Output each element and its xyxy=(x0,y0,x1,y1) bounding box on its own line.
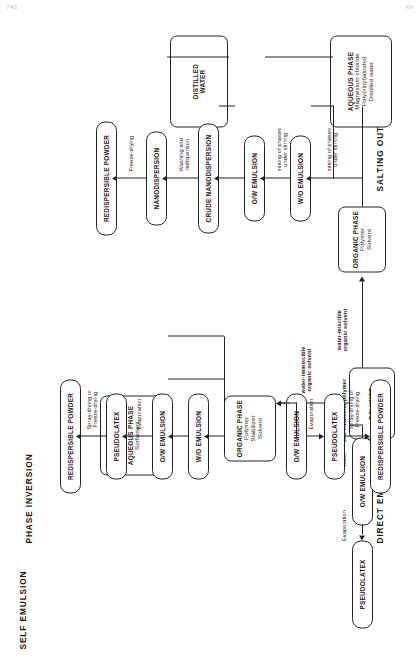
node-so-aqueous-phase-sub-2: Distilled water xyxy=(368,61,375,100)
edge-de-spine-corner xyxy=(296,435,297,436)
edge-pi-to-wo xyxy=(209,435,225,436)
node-so-ow-emulsion-label: O/W EMULSION xyxy=(251,152,258,203)
arrow-polymer-to-so-organic xyxy=(359,276,365,281)
edge-label-so-freeze-drying: Freeze-drying xyxy=(128,135,134,171)
edge-self-ow-pseudo xyxy=(362,524,363,534)
edge-de-pseudo-to-powder xyxy=(345,435,365,436)
edge-de-ow-to-pseudo xyxy=(307,435,319,436)
edge-pi-spine xyxy=(224,336,225,436)
arrow-so-organic-to-wo xyxy=(306,175,311,181)
edge-label-so-mix-2: mixing of phases under stirring xyxy=(276,127,289,171)
edge-label-pi-evaporation: Evaporation xyxy=(136,398,142,429)
edge-so-aqueous-feed-a xyxy=(311,105,333,106)
arrow-de-ow-to-pseudo xyxy=(319,433,324,439)
edge-label-water-miscible: water-miscible organic solvent xyxy=(336,308,349,351)
node-so-distilled-water-sub-0: WATER xyxy=(199,69,206,93)
edge-pi-pseudo-to-powder xyxy=(81,435,107,436)
node-self-pseudolatex-label: PSEUDOLATEX xyxy=(359,559,366,609)
arrow-pi-wo-to-ow xyxy=(168,433,173,439)
branch-title-salting-out: SALTING OUT xyxy=(375,125,385,191)
edge-so-wo-to-ow xyxy=(265,177,291,178)
arrow-so-crude-to-nano xyxy=(162,175,167,181)
node-so-organic-phase-sub-1: Solvent xyxy=(366,228,373,249)
node-so-distilled-water: DISTILLED WATER xyxy=(170,35,228,127)
node-pi-ow-emulsion-label: O/W EMULSION xyxy=(159,410,166,461)
arrow-so-ow-to-crude xyxy=(214,175,219,181)
node-pi-wo-emulsion-label: W/O EMULSION xyxy=(195,410,202,461)
arrow-de-pseudo-to-powder xyxy=(365,433,370,439)
edge-polymer-to-so-organic xyxy=(362,281,363,367)
edge-so-ow-to-crude xyxy=(219,177,245,178)
edge-label-de-evaporation: Evaporation xyxy=(308,398,314,429)
node-pi-organic-phase: ORGANIC PHASE Polymer Stabilizer Solvent xyxy=(224,395,276,461)
node-so-wo-emulsion-label: W/O EMULSION xyxy=(297,152,304,203)
node-de-pseudolatex: PSEUDOLATEX xyxy=(324,393,345,479)
edge-de-spine xyxy=(296,402,297,436)
node-so-aqueous-phase: AQUEOUS PHASE Magnesium chloride Poly(vi… xyxy=(330,35,392,127)
edge-label-so-washing: Washing and redispersion xyxy=(178,137,191,171)
branch-title-phase-inversion: PHASE INVERSION xyxy=(24,453,34,543)
edge-pi-ow-to-pseudo xyxy=(127,435,153,436)
edge-so-water-feed-b xyxy=(167,56,229,57)
arrow-pi-ow-to-pseudo xyxy=(122,433,127,439)
edge-label-water-immiscible: water-immiscible organic solvent xyxy=(300,346,313,393)
arrow-so-wo-to-ow xyxy=(260,175,265,181)
arrow-self-ow-pseudo xyxy=(359,535,365,540)
edge-label-de-drying: Spray-drying or Freeze-drying xyxy=(348,389,361,429)
node-so-nanodispersion-label: NANODISPERSION xyxy=(153,147,160,209)
node-de-pseudolatex-label: PSEUDOLATEX xyxy=(331,411,338,461)
node-pi-organic-phase-sub-2: Solvent xyxy=(257,417,264,438)
branch-title-self-emulsion: SELF EMULSION xyxy=(18,570,28,649)
edge-label-so-mix-1: mixing of phases under stirring xyxy=(326,127,339,171)
edge-so-water-feed-a xyxy=(219,105,235,106)
arrow-pi-to-wo xyxy=(204,433,209,439)
node-self-pseudolatex: PSEUDOLATEX xyxy=(352,540,373,628)
node-so-distilled-water-label: DISTILLED xyxy=(192,63,199,98)
edge-so-crude-to-nano xyxy=(167,177,199,178)
figure-page: 740 Kh SELF EMULSION POLYMER PSEUDOLATEX… xyxy=(0,0,420,661)
node-de-redispersible-powder-label: REDISPERSIBLE POWDER xyxy=(377,392,384,479)
flowchart-canvas: SELF EMULSION POLYMER PSEUDOLATEX O/W EM… xyxy=(0,0,420,661)
edge-label-pi-drying: Spray-drying or Freeze-drying xyxy=(86,389,99,429)
node-so-organic-phase: ORGANIC PHASE Polymer Solvent xyxy=(338,206,386,272)
edge-so-aqueous-feed-b xyxy=(265,56,333,57)
edge-de-spine-drop xyxy=(288,402,297,403)
arrow-so-nano-to-powder xyxy=(112,175,117,181)
edge-aqueous-to-pi-spine-2 xyxy=(168,335,224,336)
edge-aqueous-to-pi-spine xyxy=(168,378,224,379)
edge-so-organic-to-wo xyxy=(311,177,363,178)
edge-pi-wo-to-ow xyxy=(173,435,189,436)
arrow-pi-pseudo-to-powder xyxy=(76,433,81,439)
node-de-redispersible-powder: REDISPERSIBLE POWDER xyxy=(370,379,391,493)
node-self-ow-emulsion-label: O/W EMULSION xyxy=(359,455,366,506)
node-pi-pseudolatex-label: PSEUDOLATEX xyxy=(113,411,120,461)
edge-so-nano-to-powder xyxy=(117,177,147,178)
node-pi-redispersible-powder-label: REDISPERSIBLE POWDER xyxy=(67,392,74,479)
node-so-redispersible-powder-label: REDISPERSIBLE POWDER xyxy=(103,134,110,221)
edge-so-spine xyxy=(362,106,363,206)
node-so-crude-nanodispersion-label: CRUDE NANODISPERSION xyxy=(205,134,212,222)
